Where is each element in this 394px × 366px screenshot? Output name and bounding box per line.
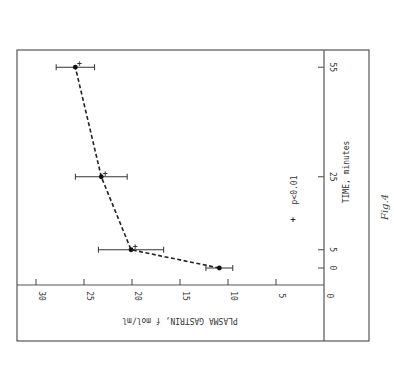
gastrin-tick-label: 20 xyxy=(133,291,142,301)
legend: + p<0.01 xyxy=(290,175,299,224)
legend-label: p<0.01 xyxy=(290,175,299,204)
time-tick-label: 55 xyxy=(328,62,337,72)
time-axis-ticks: 052555 xyxy=(318,62,337,270)
figure-canvas: 051015202530 052555 PLASMA GASTRIN, f mo… xyxy=(0,0,394,366)
gastrin-tick-label: 15 xyxy=(181,291,190,301)
figure-frame xyxy=(17,50,369,341)
figure-caption: Fig.4 xyxy=(379,194,390,221)
gastrin-tick-label: 5 xyxy=(277,294,286,299)
data-point xyxy=(217,266,222,271)
gastrin-axis-title: PLASMA GASTRIN, f mol/ml xyxy=(122,316,238,325)
legend-symbol: + xyxy=(290,214,296,224)
gastrin-axis-ticks: 051015202530 xyxy=(36,279,334,301)
time-axis-title: TIME, minutes xyxy=(342,141,351,204)
gastrin-tick-label: 0 xyxy=(325,294,334,299)
gastrin-tick-label: 25 xyxy=(85,291,94,301)
time-tick-label: 25 xyxy=(328,172,337,182)
gastrin-tick-label: 30 xyxy=(37,291,46,301)
significance-marker: + xyxy=(77,59,82,68)
time-tick-label: 5 xyxy=(328,247,337,252)
data-series: +++ xyxy=(56,59,233,271)
gastrin-tick-label: 10 xyxy=(229,291,238,301)
significance-marker: + xyxy=(103,169,108,178)
series-line xyxy=(75,67,219,268)
time-tick-label: 0 xyxy=(328,266,337,271)
significance-marker: + xyxy=(133,242,138,251)
